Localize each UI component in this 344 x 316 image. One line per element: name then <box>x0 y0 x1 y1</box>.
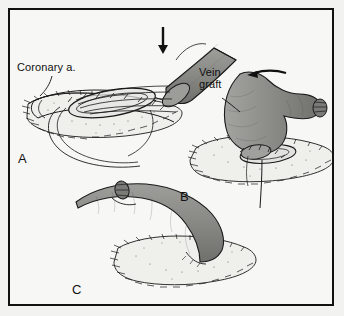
label-coronary-artery: Coronary a. <box>17 61 76 73</box>
panel-letter-c: C <box>72 283 81 296</box>
panel-letter-b: B <box>180 190 189 203</box>
myocardium-bed-c <box>114 236 256 285</box>
panel-letter-a: A <box>18 152 27 165</box>
panel-b-artwork <box>188 71 334 208</box>
suture-needle-thread-a <box>176 44 206 60</box>
down-arrow-panel-a <box>158 27 168 54</box>
illustration-artwork <box>0 0 344 316</box>
panel-c-artwork <box>76 180 256 287</box>
label-vein-graft: Vein graft <box>199 66 222 90</box>
graft-tip-clip-b <box>313 99 327 117</box>
leader-line-coronary <box>40 76 52 96</box>
figure-root: Coronary a. Vein graft A B C <box>0 0 344 316</box>
